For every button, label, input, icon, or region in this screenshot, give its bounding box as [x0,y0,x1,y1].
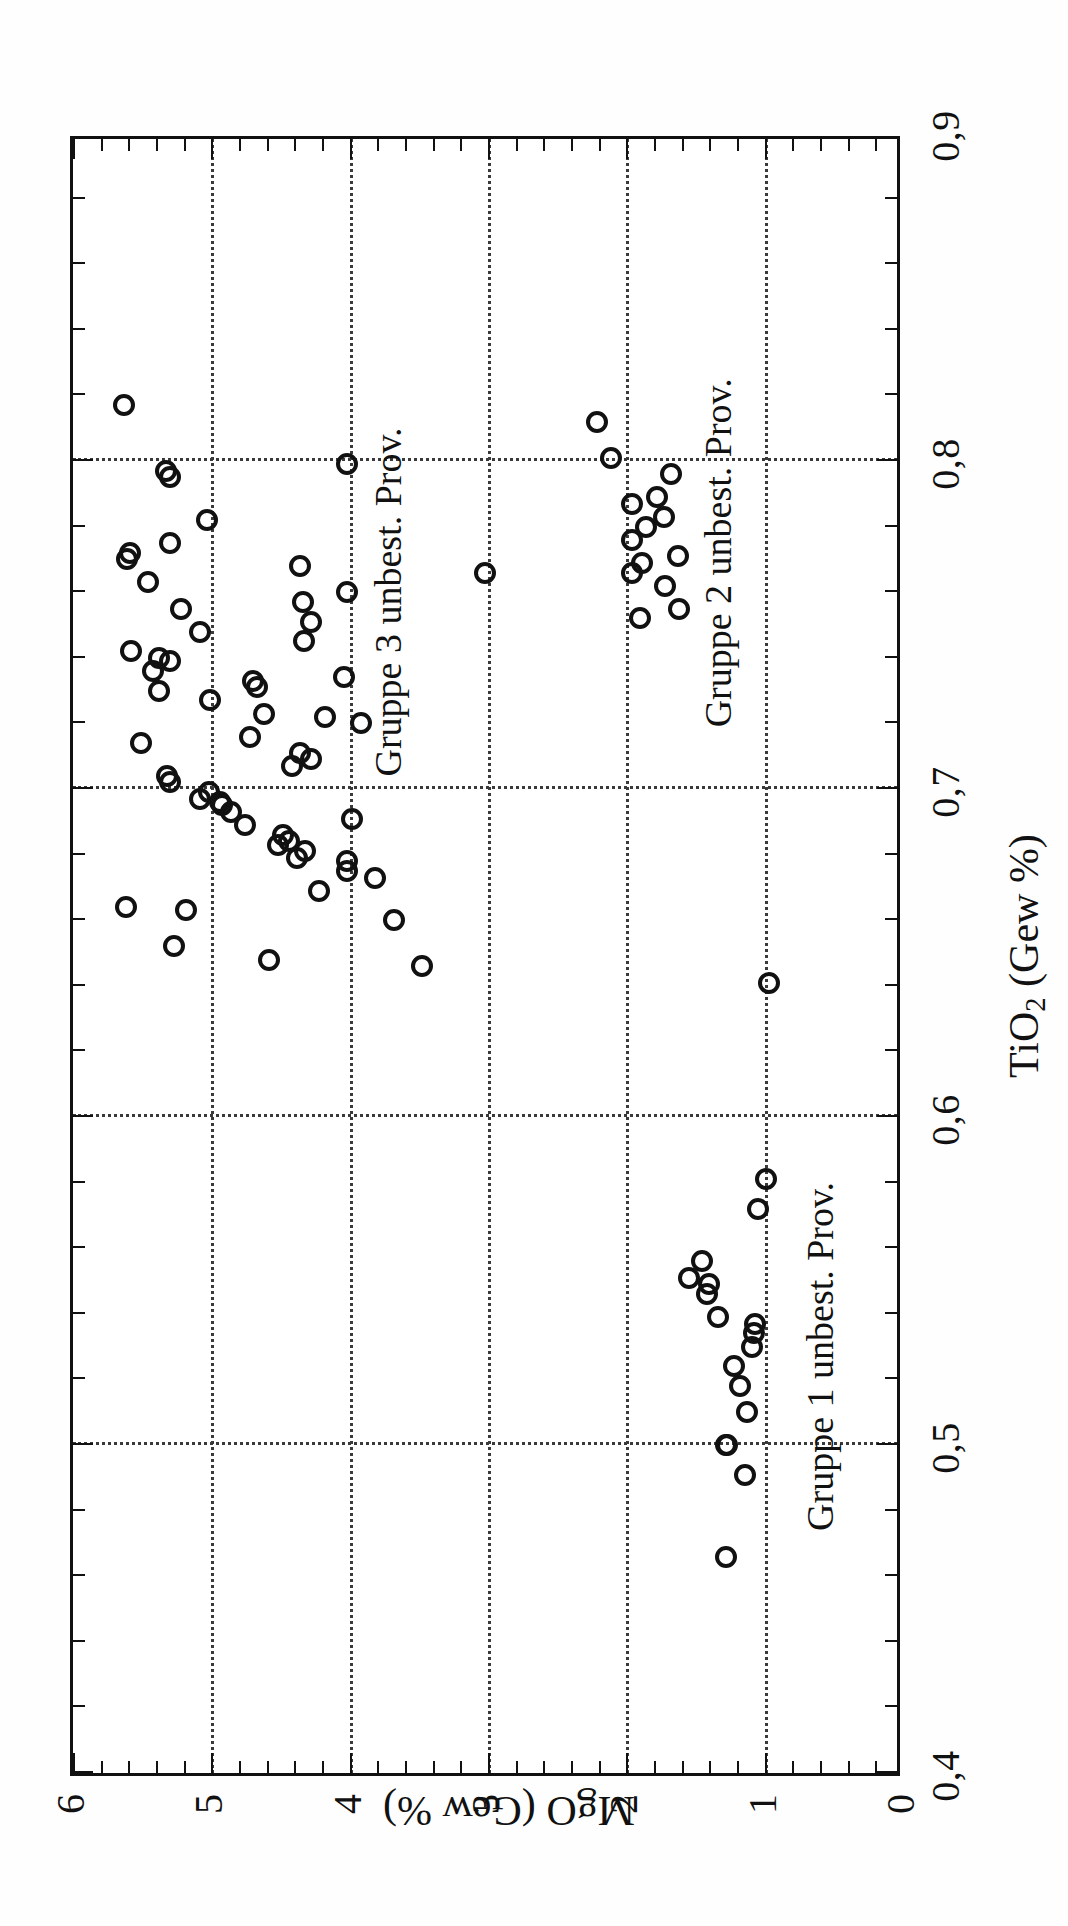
plot-area: Gruppe 1 unbest. Prov.Gruppe 2 unbest. P… [73,139,897,1773]
x-tick-major [73,1771,93,1773]
scatter-figure: Gruppe 1 unbest. Prov.Gruppe 2 unbest. P… [0,0,1068,1926]
data-point [747,1198,769,1220]
y-gridline [350,139,353,1773]
x-tick-major [73,459,93,461]
x-tick-minor [73,328,85,330]
data-point [758,972,780,994]
x-tick-minor [73,1574,85,1576]
x-tick-minor [885,525,897,527]
data-point [130,732,152,754]
x-tick-minor [885,1181,897,1183]
y-tick-major [350,1753,352,1773]
x-tick-major [877,1115,897,1117]
x-tick-minor [73,393,85,395]
data-point [653,506,675,528]
y-tick-minor [599,139,601,151]
y-tick-major [350,139,352,159]
y-tick-minor [128,139,130,151]
data-point [336,453,358,475]
x-tick-minor [885,853,897,855]
data-point [163,935,185,957]
x-tick-minor [73,525,85,527]
group-annotation-gruppe-2: Gruppe 2 unbest. Prov. [696,378,740,727]
x-tick-minor [73,984,85,986]
x-tick-minor [73,918,85,920]
y-tick-minor [875,1761,877,1773]
y-tick-major [73,139,75,159]
y-tick-minor [848,139,850,151]
rotated-figure-container: Gruppe 1 unbest. Prov.Gruppe 2 unbest. P… [0,0,1068,1926]
y-tick-major [626,139,628,159]
data-point [734,1464,756,1486]
y-tick-minor [654,1761,656,1773]
y-tick-minor [322,1761,324,1773]
data-point [629,607,651,629]
x-axis-title: TiO2 (Gew %) [1000,136,1052,1776]
x-tick-minor [73,656,85,658]
data-point [621,493,643,515]
y-tick-minor [239,139,241,151]
data-point [159,532,181,554]
data-point [716,1434,738,1456]
y-tick-major [211,1753,213,1773]
y-tick-minor [460,1761,462,1773]
y-tick-minor [184,1761,186,1773]
data-point [137,571,159,593]
data-point [300,611,322,633]
data-point [364,867,386,889]
y-tick-minor [156,1761,158,1773]
y-tick-minor [101,1761,103,1773]
x-tick-major [73,787,93,789]
data-point [729,1375,751,1397]
data-point [113,394,135,416]
y-tick-minor [516,139,518,151]
x-tick-major [73,1443,93,1445]
x-tick-minor [73,721,85,723]
x-tick-label: 0,9 [922,110,969,162]
x-tick-minor [885,1705,897,1707]
data-point [199,689,221,711]
y-tick-minor [377,1761,379,1773]
y-tick-minor [267,1761,269,1773]
data-point [289,742,311,764]
y-tick-major [626,1753,628,1773]
y-axis-title: MgO (Gew %) [94,1787,924,1835]
y-tick-minor [792,1761,794,1773]
data-point [289,555,311,577]
x-tick-major [73,1115,93,1117]
y-tick-minor [875,139,877,151]
x-tick-minor [885,1574,897,1576]
y-tick-minor [792,139,794,151]
y-tick-minor [156,139,158,151]
y-tick-minor [294,1761,296,1773]
y-tick-minor [128,1761,130,1773]
group-annotation-gruppe-3: Gruppe 3 unbest. Prov. [366,428,410,777]
data-point [242,670,264,692]
y-tick-minor [184,139,186,151]
y-tick-minor [709,1761,711,1773]
data-point [715,1546,737,1568]
data-point [175,899,197,921]
y-gridline [211,139,214,1773]
x-tick-minor [885,1509,897,1511]
y-tick-minor [267,139,269,151]
x-tick-minor [885,1312,897,1314]
x-tick-major [877,459,897,461]
data-point [654,575,676,597]
y-tick-major [488,139,490,159]
y-tick-major [765,139,767,159]
y-tick-minor [820,139,822,151]
x-tick-label: 0,8 [922,438,969,490]
y-tick-label: 6 [47,1794,94,1856]
x-tick-minor [73,1181,85,1183]
data-point [723,1355,745,1377]
x-tick-minor [885,197,897,199]
data-point [474,562,496,584]
y-tick-minor [820,1761,822,1773]
x-tick-minor [73,197,85,199]
x-tick-minor [73,590,85,592]
y-tick-minor [405,1761,407,1773]
y-tick-minor [543,139,545,151]
x-tick-minor [73,1049,85,1051]
x-tick-label: 0,5 [922,1422,969,1474]
